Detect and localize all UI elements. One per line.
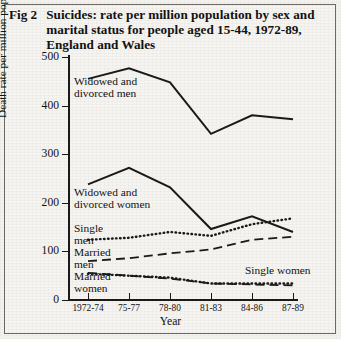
series-label-widowed-divorced-women: Widowed and divorced women [74,186,150,211]
chart-lines [0,0,341,339]
series-label-married-men: Married men [74,246,111,271]
series-label-married-women: Married women [74,270,111,295]
series-line-single-men [88,218,293,239]
series-label-widowed-divorced-men: Widowed and divorced men [74,75,137,100]
series-label-single-men: Single men [74,222,103,247]
series-line-married-men [88,237,293,261]
figure-container: Fig 2 Suicides: rate per million populat… [0,0,341,339]
series-label-single-women: Single women [245,264,311,276]
